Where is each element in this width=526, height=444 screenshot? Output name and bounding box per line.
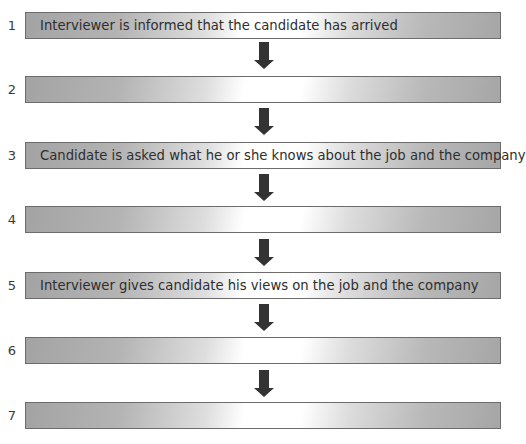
step-box: Interviewer is informed that the candida… [25, 12, 501, 39]
step-box-blank [25, 76, 501, 103]
flow-step-6: 6 [0, 337, 515, 364]
down-arrow-icon [254, 370, 274, 397]
step-number: 2 [6, 76, 18, 103]
step-box-blank [25, 337, 501, 364]
step-text: Candidate is asked what he or she knows … [40, 143, 526, 168]
down-arrow-icon [254, 239, 274, 266]
step-number: 5 [6, 272, 18, 299]
flow-step-4: 4 [0, 206, 515, 233]
flow-step-1: 1 Interviewer is informed that the candi… [0, 12, 515, 39]
step-text: Interviewer is informed that the candida… [40, 13, 398, 38]
flow-step-3: 3 Candidate is asked what he or she know… [0, 142, 515, 169]
step-box-blank [25, 402, 501, 429]
flow-step-7: 7 [0, 402, 515, 429]
step-number: 6 [6, 337, 18, 364]
step-box-blank [25, 206, 501, 233]
step-box: Interviewer gives candidate his views on… [25, 272, 501, 299]
down-arrow-icon [254, 108, 274, 135]
step-number: 1 [6, 12, 18, 39]
flow-step-5: 5 Interviewer gives candidate his views … [0, 272, 515, 299]
down-arrow-icon [254, 174, 274, 201]
step-text: Interviewer gives candidate his views on… [40, 273, 479, 298]
step-number: 3 [6, 142, 18, 169]
step-number: 4 [6, 206, 18, 233]
down-arrow-icon [254, 304, 274, 331]
step-box: Candidate is asked what he or she knows … [25, 142, 501, 169]
down-arrow-icon [254, 42, 274, 69]
step-number: 7 [6, 402, 18, 429]
flow-step-2: 2 [0, 76, 515, 103]
